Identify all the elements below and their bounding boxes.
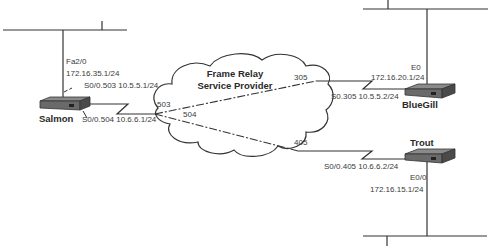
trout-lan-interface: E0/0: [410, 173, 426, 183]
trout-lan-ip: 172.16.15.1/24: [370, 185, 423, 195]
salmon-serial-link: [90, 104, 155, 114]
dlci-305: 305: [294, 73, 307, 82]
bluegill-lan-interface: E0: [411, 63, 421, 73]
cloud-title-line2: Service Provider: [180, 80, 290, 92]
bluegill-router-icon[interactable]: [405, 84, 455, 98]
dlci-503: 503: [157, 100, 170, 109]
trout-subif: S0/0.405 10.6.6.2/24: [324, 162, 398, 172]
dlci-504: 504: [183, 110, 196, 119]
cloud-title-line1: Frame Relay: [180, 68, 290, 80]
salmon-503-pointer: [64, 88, 72, 92]
dlci-405: 405: [294, 138, 307, 147]
salmon-router-name: Salmon: [39, 113, 73, 124]
salmon-router-icon[interactable]: [40, 97, 90, 110]
trout-router-name: Trout: [410, 137, 434, 148]
trout-serial-link: [298, 151, 412, 159]
bluegill-lan-ip: 172.16.20.1/24: [371, 73, 424, 83]
trout-router-icon[interactable]: [405, 149, 455, 163]
network-diagram: [0, 0, 491, 247]
bluegill-router-name: BlueGill: [402, 99, 438, 110]
salmon-subif-503: S0/0.503 10.5.5.1/24: [84, 81, 158, 91]
salmon-subif-504: S0/0.504 10.6.6.1/24: [82, 115, 156, 125]
bluegill-subif: S0.305 10.5.5.2/24: [331, 92, 399, 102]
salmon-lan-ip: 172.16.35.1/24: [66, 69, 119, 79]
cloud-title: Frame Relay Service Provider: [180, 68, 290, 92]
salmon-lan-interface: Fa2/0: [66, 57, 86, 67]
